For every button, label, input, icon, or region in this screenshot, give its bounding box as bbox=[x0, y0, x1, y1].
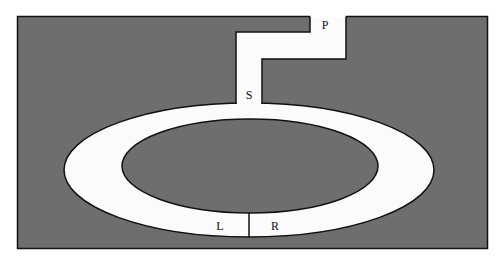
label-s: S bbox=[246, 88, 253, 102]
label-p: P bbox=[322, 18, 329, 32]
label-r: R bbox=[271, 219, 279, 233]
track-diagram: P S L R bbox=[0, 0, 501, 261]
inner-island-ellipse bbox=[122, 119, 378, 213]
label-l: L bbox=[216, 219, 223, 233]
